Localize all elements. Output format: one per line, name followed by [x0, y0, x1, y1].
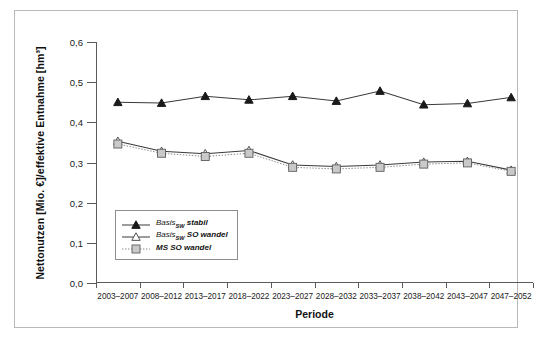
legend-marker-icon — [121, 241, 151, 253]
y-axis-tick-label: 0,6 — [70, 37, 83, 48]
y-axis-tick — [87, 82, 96, 83]
legend-item: MS SO wandel — [121, 241, 228, 253]
series-line — [118, 91, 511, 105]
data-point — [289, 163, 297, 171]
y-axis-tick — [87, 122, 96, 123]
data-point — [201, 152, 209, 160]
series-1 — [114, 87, 516, 108]
x-axis-tick-label: 2013–2017 — [185, 292, 226, 301]
legend-marker-icon — [121, 217, 151, 229]
x-axis-tick — [96, 283, 97, 288]
data-point — [420, 160, 428, 168]
data-point — [201, 92, 209, 100]
y-axis-tick-label: 0,5 — [70, 77, 83, 88]
x-axis-tick — [271, 283, 272, 288]
chart-legend: BasisSW stabilBasisSW SO wandelMS SO wan… — [115, 210, 238, 260]
data-point — [245, 149, 253, 157]
data-point — [288, 92, 296, 100]
x-axis-tick-label: 2028–2032 — [316, 292, 357, 301]
y-axis-tick-label: 0,1 — [70, 237, 83, 248]
series-3 — [114, 140, 515, 175]
x-axis-tick — [489, 283, 490, 288]
y-axis-tick — [87, 243, 96, 244]
y-axis-title-text: Nettonutzen [Mio. €]/effektive Entnahme … — [34, 46, 46, 279]
legend-label: BasisSW SO wandel — [156, 230, 228, 241]
y-axis-tick-label: 0,4 — [70, 117, 83, 128]
plot-area: 0,00,10,20,30,40,50,6 2003–20072008–2012… — [96, 42, 533, 283]
data-point — [507, 167, 515, 175]
y-axis-title: Nettonutzen [Mio. €]/effektive Entnahme … — [32, 42, 48, 283]
legend-item: BasisSW SO wandel — [121, 229, 228, 241]
y-axis-tick — [87, 163, 96, 164]
x-axis-tick — [358, 283, 359, 288]
legend-label: BasisSW stabil — [156, 218, 208, 229]
x-axis-tick — [227, 283, 228, 288]
x-axis-tick-label: 2043–2047 — [447, 292, 488, 301]
x-axis-tick-label: 2047–2052 — [491, 292, 532, 301]
data-point — [463, 159, 471, 167]
x-axis-tick-label: 2003–2007 — [97, 292, 138, 301]
data-point — [376, 163, 384, 171]
data-point — [376, 87, 384, 95]
chart-frame: Nettonutzen [Mio. €]/effektive Entnahme … — [14, 10, 518, 328]
x-axis-tick — [402, 283, 403, 288]
y-axis-tick — [87, 42, 96, 43]
series-2 — [114, 137, 516, 173]
y-axis-tick — [87, 203, 96, 204]
y-axis-tick — [87, 283, 96, 284]
data-point — [332, 165, 340, 173]
x-axis-title: Periode — [96, 308, 533, 320]
series-line — [118, 144, 511, 171]
y-axis-tick-label: 0,2 — [70, 197, 83, 208]
y-axis-tick-label: 0,3 — [70, 157, 83, 168]
data-point — [507, 93, 515, 101]
x-axis-tick — [315, 283, 316, 288]
x-axis-tick-label: 2038–2042 — [403, 292, 444, 301]
x-axis-tick-label: 2008–2012 — [141, 292, 182, 301]
legend-item: BasisSW stabil — [121, 217, 228, 229]
legend-marker-icon — [121, 229, 151, 241]
x-axis-tick-label: 2023–2027 — [272, 292, 313, 301]
x-axis-tick — [140, 283, 141, 288]
data-point — [158, 149, 166, 157]
x-axis-tick-label: 2033–2037 — [360, 292, 401, 301]
data-point — [114, 140, 122, 148]
x-axis-tick-label: 2018–2022 — [228, 292, 269, 301]
y-axis-tick-label: 0,0 — [70, 278, 83, 289]
legend-label: MS SO wandel — [156, 243, 211, 252]
x-axis-tick — [183, 283, 184, 288]
series-line — [118, 141, 511, 170]
x-axis-tick — [446, 283, 447, 288]
